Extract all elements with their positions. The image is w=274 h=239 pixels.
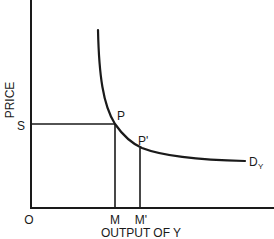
demand-curve-label: D (249, 155, 258, 169)
point-p-prime-label: P' (138, 134, 148, 148)
m-prime-label: M' (135, 213, 147, 227)
x-axis-label: OUTPUT OF Y (101, 226, 181, 239)
demand-diagram: PRICE S O P P' M M' OUTPUT OF Y D Y (0, 0, 274, 239)
price-level-label: S (17, 119, 25, 133)
origin-label: O (24, 213, 33, 227)
m-label: M (110, 213, 120, 227)
point-p-label: P (117, 109, 125, 123)
demand-curve (98, 30, 245, 161)
demand-curve-label-subscript: Y (258, 162, 264, 171)
y-axis-label: PRICE (3, 82, 17, 119)
